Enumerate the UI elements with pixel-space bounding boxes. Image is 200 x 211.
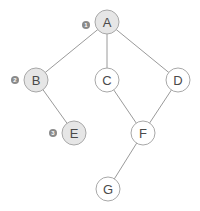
order-badge-1: 1: [82, 21, 90, 29]
order-badge-3: 3: [49, 129, 57, 137]
node-label: B: [32, 73, 41, 88]
node-c: C: [95, 68, 119, 92]
node-label: D: [173, 73, 182, 88]
node-b: B: [24, 68, 48, 92]
edge-a-d: [107, 22, 178, 80]
node-label: E: [70, 126, 79, 141]
node-a: A: [95, 10, 119, 34]
node-g: G: [96, 177, 120, 201]
edges-group: [36, 22, 178, 189]
node-label: G: [103, 182, 113, 197]
node-label: F: [139, 126, 147, 141]
node-f: F: [131, 121, 155, 145]
edge-a-b: [36, 22, 107, 80]
order-badges-group: 123: [11, 21, 90, 137]
graph-diagram: ABCDEFG 123: [0, 0, 200, 211]
order-badge-2: 2: [11, 76, 19, 84]
node-label: A: [103, 15, 112, 30]
node-d: D: [166, 68, 190, 92]
node-e: E: [62, 121, 86, 145]
node-label: C: [102, 73, 111, 88]
